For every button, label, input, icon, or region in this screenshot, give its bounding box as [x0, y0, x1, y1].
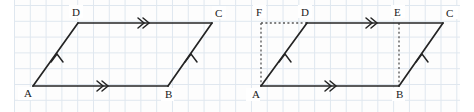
- geometry-figures: A B C D: [0, 0, 474, 112]
- vertex-label-D-right: D: [301, 6, 309, 18]
- vertex-label-E-right: E: [394, 6, 401, 18]
- vertex-label-D-left: D: [72, 6, 80, 18]
- vertex-label-C-right: C: [446, 7, 453, 19]
- vertex-label-F-right: F: [256, 6, 262, 18]
- diagram-canvas: A B C D: [0, 0, 474, 112]
- right-parallelogram-group: A B C D E F: [246, 5, 458, 101]
- vertex-label-B-left: B: [165, 88, 172, 100]
- vertex-label-A-right: A: [252, 88, 260, 100]
- vertex-label-C-left: C: [215, 7, 222, 19]
- vertex-label-B-right: B: [396, 88, 403, 100]
- left-parallelogram-group: A B C D: [18, 5, 226, 101]
- vertex-label-A-left: A: [24, 87, 32, 99]
- edge-A-D-left: [33, 23, 78, 86]
